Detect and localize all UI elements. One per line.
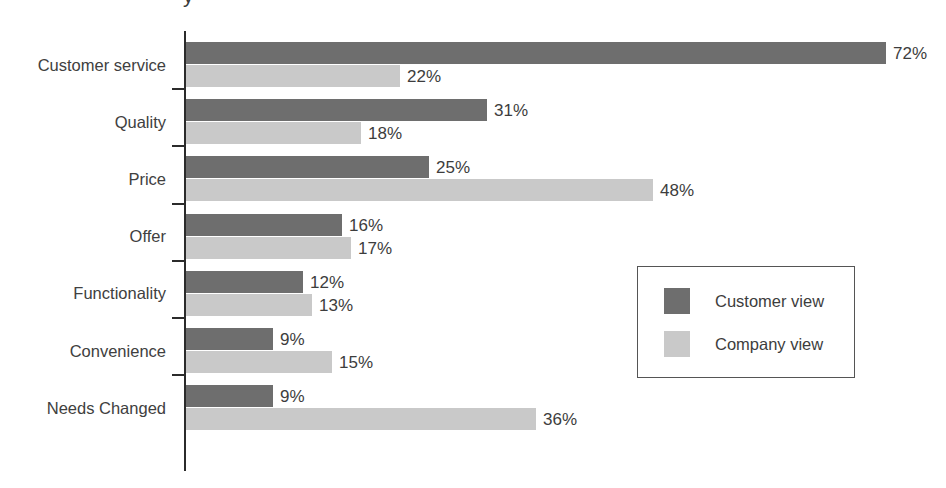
bar-company-view[interactable]: 22% xyxy=(186,65,400,87)
bar-customer-view[interactable]: 25% xyxy=(186,156,429,178)
bar-fill xyxy=(186,65,400,87)
chart-legend: Customer view Company view xyxy=(637,266,855,378)
bar-group: Offer16%17% xyxy=(0,214,946,259)
bar-fill xyxy=(186,99,487,121)
bar-company-view[interactable]: 36% xyxy=(186,408,536,430)
bar-value-label: 22% xyxy=(407,68,441,85)
bar-rows-container: Customer service72%22%Quality31%18%Price… xyxy=(0,0,946,488)
bar-value-label: 36% xyxy=(543,411,577,428)
bar-fill xyxy=(186,179,653,201)
category-label: Price xyxy=(0,171,166,188)
category-label: Functionality xyxy=(0,285,166,302)
bar-group: Quality31%18% xyxy=(0,99,946,144)
axis-tick xyxy=(172,374,185,376)
bar-customer-view[interactable]: 9% xyxy=(186,385,273,407)
bar-value-label: 25% xyxy=(436,159,470,176)
bar-fill xyxy=(186,214,342,236)
grouped-bar-chart: y Customer service72%22%Quality31%18%Pri… xyxy=(0,0,946,488)
bar-company-view[interactable]: 17% xyxy=(186,237,351,259)
axis-tick xyxy=(172,203,185,205)
bar-fill xyxy=(186,271,303,293)
bar-group: Price25%48% xyxy=(0,156,946,201)
bar-value-label: 72% xyxy=(893,45,927,62)
category-label: Needs Changed xyxy=(0,400,166,417)
bar-customer-view[interactable]: 9% xyxy=(186,328,273,350)
bar-customer-view[interactable]: 16% xyxy=(186,214,342,236)
bar-customer-view[interactable]: 12% xyxy=(186,271,303,293)
category-label: Customer service xyxy=(0,57,166,74)
bar-fill xyxy=(186,237,351,259)
bar-group: Needs Changed9%36% xyxy=(0,385,946,430)
axis-tick xyxy=(172,260,185,262)
bar-value-label: 31% xyxy=(494,102,528,119)
bar-fill xyxy=(186,42,886,64)
bar-fill xyxy=(186,328,273,350)
legend-swatch-company-view-icon xyxy=(664,331,690,357)
bar-company-view[interactable]: 18% xyxy=(186,122,361,144)
bar-fill xyxy=(186,408,536,430)
bar-value-label: 9% xyxy=(280,388,305,405)
bar-customer-view[interactable]: 31% xyxy=(186,99,487,121)
bar-company-view[interactable]: 48% xyxy=(186,179,653,201)
bar-value-label: 15% xyxy=(339,354,373,371)
bar-value-label: 18% xyxy=(368,125,402,142)
bar-value-label: 17% xyxy=(358,239,392,256)
legend-label-company-view: Company view xyxy=(715,336,823,353)
legend-label-customer-view: Customer view xyxy=(715,293,824,310)
bar-value-label: 16% xyxy=(349,216,383,233)
category-label: Offer xyxy=(0,228,166,245)
axis-tick xyxy=(172,317,185,319)
bar-fill xyxy=(186,351,332,373)
bar-fill xyxy=(186,385,273,407)
bar-company-view[interactable]: 15% xyxy=(186,351,332,373)
bar-value-label: 12% xyxy=(310,273,344,290)
bar-value-label: 13% xyxy=(319,296,353,313)
legend-item-customer-view[interactable]: Customer view xyxy=(664,288,824,314)
category-label: Quality xyxy=(0,114,166,131)
legend-item-company-view[interactable]: Company view xyxy=(664,331,823,357)
category-label: Convenience xyxy=(0,343,166,360)
bar-fill xyxy=(186,156,429,178)
axis-tick xyxy=(172,145,185,147)
bar-group: Customer service72%22% xyxy=(0,42,946,87)
bar-value-label: 9% xyxy=(280,331,305,348)
legend-swatch-customer-view-icon xyxy=(664,288,690,314)
bar-customer-view[interactable]: 72% xyxy=(186,42,886,64)
bar-value-label: 48% xyxy=(660,182,694,199)
bar-company-view[interactable]: 13% xyxy=(186,294,312,316)
bar-fill xyxy=(186,294,312,316)
axis-tick xyxy=(172,88,185,90)
bar-fill xyxy=(186,122,361,144)
